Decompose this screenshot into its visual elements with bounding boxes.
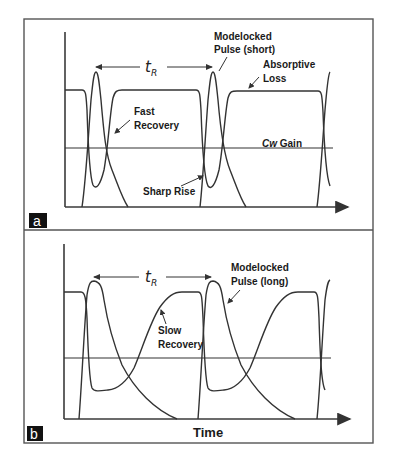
x-axis-label: Time xyxy=(193,425,223,440)
loss-pointer-a xyxy=(249,77,259,88)
cw-gain-label-a: Cw Gain xyxy=(262,138,302,149)
panel-a: tR ModelockedPulse (short) AbsorptiveLos… xyxy=(29,31,348,229)
recovery-label-a: FastRecovery xyxy=(134,106,179,131)
pulse-curve-a-3 xyxy=(317,72,330,207)
sharp-rise-pointer-a xyxy=(181,176,203,186)
pulse-curve-b-1 xyxy=(79,281,177,419)
pulse-curve-b-3 xyxy=(317,280,330,419)
panel-b: tR ModelockedPulse (long) SlowRecovery T… xyxy=(27,244,350,442)
pulse-label-b: ModelockedPulse (long) xyxy=(231,262,289,287)
modelocking-diagram: tR ModelockedPulse (short) AbsorptiveLos… xyxy=(0,0,393,461)
period-label-b: tR xyxy=(145,268,157,288)
panel-tag-b: b xyxy=(30,426,38,442)
pulse-label-a: ModelockedPulse (short) xyxy=(214,31,275,55)
recovery-pointer-a xyxy=(115,120,130,133)
panel-tag-a: a xyxy=(33,213,41,229)
period-label-a: tR xyxy=(145,58,157,78)
pulse-curve-a-1 xyxy=(82,72,128,207)
recovery-pointer-b xyxy=(161,310,166,324)
pulse-pointer-a xyxy=(219,57,227,71)
loss-label-a: AbsorptiveLoss xyxy=(263,59,316,84)
recovery-label-b: SlowRecovery xyxy=(158,325,203,350)
pulse-curve-a-2 xyxy=(200,72,246,207)
sharp-rise-label-a: Sharp Rise xyxy=(143,186,196,197)
pulse-pointer-b xyxy=(228,290,240,303)
